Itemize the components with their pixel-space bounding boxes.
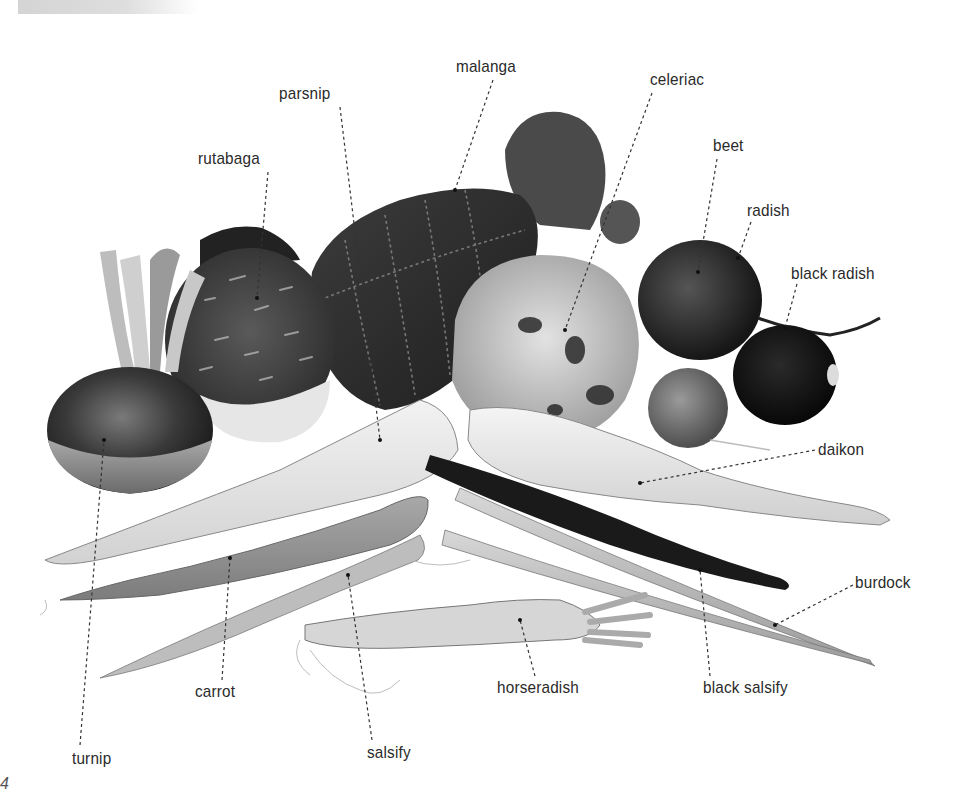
- horseradish: [305, 595, 650, 648]
- label-black-radish: black radish: [791, 264, 875, 284]
- label-beet: beet: [713, 136, 744, 156]
- turnip: [47, 367, 213, 494]
- label-carrot: carrot: [195, 682, 235, 702]
- black-radish: [733, 325, 839, 425]
- label-burdock: burdock: [855, 573, 911, 593]
- label-malanga: malanga: [456, 57, 516, 77]
- page-number: 4: [0, 775, 9, 793]
- label-celeriac: celeriac: [650, 70, 704, 90]
- label-horseradish: horseradish: [497, 678, 579, 698]
- label-black-salsify: black salsify: [703, 678, 788, 698]
- label-daikon: daikon: [818, 440, 864, 460]
- label-rutabaga: rutabaga: [198, 149, 260, 169]
- root-vegetables-illustration: [0, 0, 966, 795]
- label-turnip: turnip: [72, 749, 111, 769]
- label-parsnip: parsnip: [279, 84, 330, 104]
- label-radish: radish: [747, 201, 790, 221]
- label-salsify: salsify: [367, 743, 411, 763]
